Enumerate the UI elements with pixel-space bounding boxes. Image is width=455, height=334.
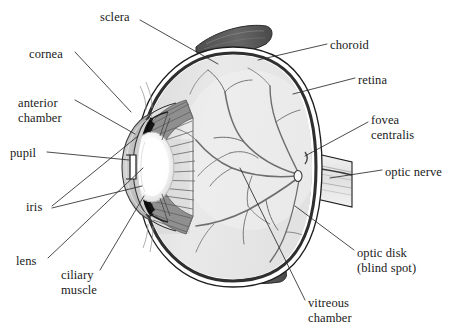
label-vitreous_chamber: vitreous chamber	[308, 296, 352, 325]
label-ciliary_muscle: ciliary muscle	[61, 268, 97, 297]
leader-anterior-chamber	[75, 100, 135, 134]
label-choroid: choroid	[330, 38, 369, 53]
label-optic_disk: optic disk (blind spot)	[357, 246, 416, 275]
leader-lens	[48, 168, 143, 258]
label-sclera: sclera	[100, 10, 130, 25]
label-cornea: cornea	[29, 47, 63, 62]
label-pupil: pupil	[10, 146, 36, 161]
label-anterior_chamber: anterior chamber	[18, 96, 62, 125]
label-retina: retina	[358, 73, 387, 88]
label-fovea_centralis: fovea centralis	[371, 113, 414, 142]
leader-choroid	[258, 44, 327, 60]
optic-disk-marker	[294, 171, 302, 182]
leader-ciliary-muscle	[100, 196, 144, 270]
label-iris: iris	[26, 200, 42, 215]
leader-cornea	[75, 52, 131, 112]
label-lens: lens	[16, 254, 37, 269]
label-optic_nerve: optic nerve	[385, 165, 442, 180]
